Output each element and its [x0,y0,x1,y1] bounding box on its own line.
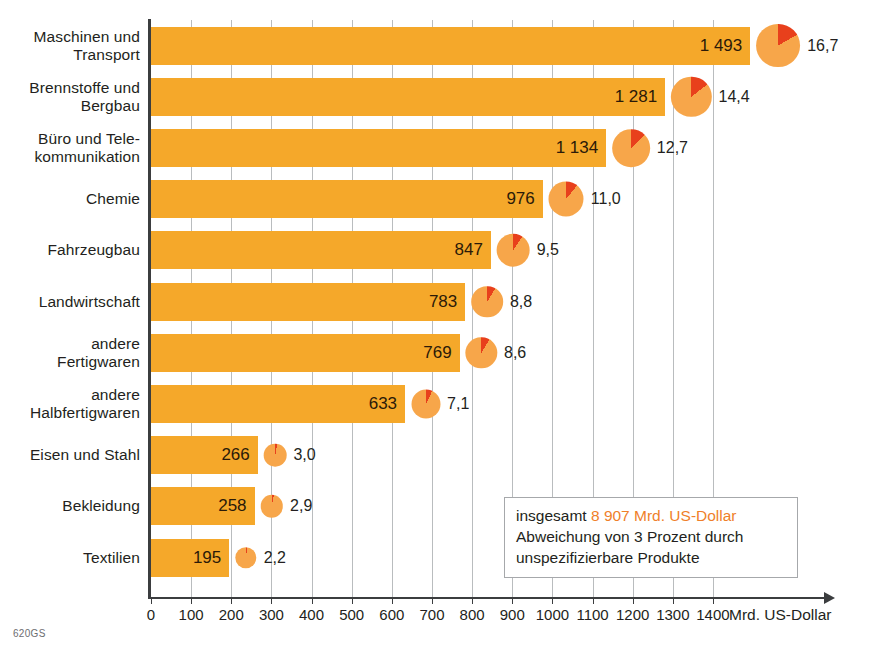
category-label: Eisen und Stahl [0,446,140,464]
percent-label: 8,8 [510,293,532,311]
category-label-line1: andere [0,386,140,404]
share-pie-chart [261,495,283,517]
share-pie-chart [235,547,256,568]
tick-700 [432,597,433,604]
category-label-line1: Landwirtschaft [0,293,140,311]
category-label-line1: Fahrzeugbau [0,241,140,259]
bar-value-label: 976 [506,189,534,209]
bar[interactable] [151,78,665,116]
bar-value-label: 258 [218,496,246,516]
category-label-line2: Fertigwaren [0,353,140,371]
legend-total-line: insgesamt 8 907 Mrd. US-Dollar [516,505,787,526]
tick-200 [231,597,232,604]
x-axis-line [149,597,825,599]
share-pie-chart [671,77,711,117]
category-label: Brennstoffe undBergbau [0,79,140,115]
category-label: Fahrzeugbau [0,241,140,259]
share-pie-chart [411,389,440,418]
percent-label: 2,9 [290,497,312,515]
x-axis-unit-label: Mrd. US-Dollar [729,606,831,624]
bar-value-label: 769 [423,343,451,363]
tick-400 [312,597,313,604]
tick-500 [352,597,353,604]
bar-value-label: 1 134 [556,138,599,158]
tick-1000 [552,597,553,604]
tick-label-1000: 1000 [536,606,569,623]
category-label-line1: Eisen und Stahl [0,446,140,464]
percent-label: 8,6 [504,344,526,362]
legend-note-line2: unspezifizierbare Produkte [516,547,787,568]
category-label-line1: Brennstoffe und [0,79,140,97]
tick-1400 [713,597,714,604]
percent-label: 14,4 [719,88,750,106]
bar[interactable] [151,27,750,65]
source-code: 620GS [13,628,46,639]
share-pie-chart [471,286,503,318]
share-pie-chart [497,234,530,267]
tick-label-100: 100 [179,606,204,623]
chart-row: andereHalbfertigwaren6337,1 [0,378,870,429]
category-label: Textilien [0,549,140,567]
tick-900 [512,597,513,604]
percent-label: 2,2 [264,549,286,567]
category-label-line2: Transport [0,46,140,64]
tick-300 [271,597,272,604]
bar-value-label: 847 [455,240,483,260]
share-pie-chart [264,444,287,467]
legend-prefix: insgesamt [516,507,591,524]
bar[interactable] [151,283,465,321]
legend-box: insgesamt 8 907 Mrd. US-Dollar Abweichun… [504,497,798,578]
legend-note-line1: Abweichung von 3 Prozent durch [516,526,787,547]
category-label-line1: Chemie [0,190,140,208]
tick-label-1100: 1100 [576,606,608,623]
percent-label: 3,0 [293,446,315,464]
tick-label-900: 900 [500,606,525,623]
chart-row: Chemie97611,0 [0,174,870,225]
tick-label-600: 600 [379,606,404,623]
chart-row: Fahrzeugbau8479,5 [0,225,870,276]
tick-800 [472,597,473,604]
percent-label: 16,7 [807,37,838,55]
category-label-line2: kommunikation [0,148,140,166]
percent-label: 12,7 [657,139,688,157]
chart-row: Brennstoffe undBergbau1 28114,4 [0,71,870,122]
category-label: Bekleidung [0,497,140,515]
bar-value-label: 1 281 [615,87,658,107]
chart-row: Landwirtschaft7838,8 [0,276,870,327]
category-label: andereHalbfertigwaren [0,386,140,422]
chart-row: Büro und Tele-kommunikation1 13412,7 [0,122,870,173]
tick-label-200: 200 [219,606,244,623]
percent-label: 7,1 [447,395,469,413]
category-label-line1: Textilien [0,549,140,567]
category-label-line1: Büro und Tele- [0,130,140,148]
tick-label-700: 700 [419,606,444,623]
share-pie-chart [549,182,584,217]
category-label-line1: andere [0,335,140,353]
chart-row: Eisen und Stahl2663,0 [0,430,870,481]
bar[interactable] [151,231,491,269]
category-label: andereFertigwaren [0,335,140,371]
bar[interactable] [151,334,460,372]
bar[interactable] [151,180,543,218]
tick-label-1400: 1400 [696,606,729,623]
category-label-line1: Maschinen und [0,28,140,46]
chart-row: Maschinen undTransport1 49316,7 [0,20,870,71]
bar[interactable] [151,385,405,423]
tick-label-0: 0 [147,606,155,623]
bar-chart: Maschinen undTransport1 49316,7Brennstof… [0,0,870,648]
percent-label: 9,5 [537,241,559,259]
chart-row: andereFertigwaren7698,6 [0,327,870,378]
tick-1100 [593,597,594,604]
category-label: Landwirtschaft [0,293,140,311]
category-label-line2: Bergbau [0,97,140,115]
tick-1300 [673,597,674,604]
tick-600 [392,597,393,604]
category-label: Maschinen undTransport [0,28,140,64]
category-label-line1: Bekleidung [0,497,140,515]
bar-value-label: 266 [221,445,249,465]
x-axis-arrow-icon [824,592,835,604]
bar-value-label: 1 493 [700,36,743,56]
bar[interactable] [151,129,606,167]
legend-total-value: 8 907 Mrd. US-Dollar [591,507,737,524]
tick-0 [151,597,152,604]
